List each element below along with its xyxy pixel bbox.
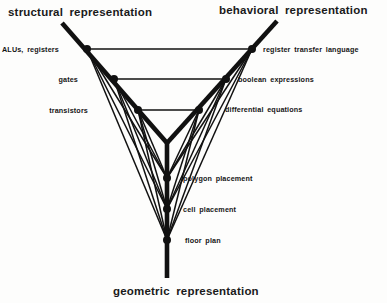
axis-title-structural: structural representation <box>8 6 152 18</box>
y-chart-figure: structural representation behavioral rep… <box>0 0 387 303</box>
node-label-polygon-placement: polygon placement <box>183 174 253 183</box>
fan-line-gates-cell <box>114 79 167 209</box>
axis-title-geometric: geometric representation <box>113 285 259 297</box>
node-label-cell-placement: cell placement <box>183 205 236 214</box>
node-label-differential-equations: differential equations <box>225 105 302 114</box>
axis-title-behavioral: behavioral representation <box>219 4 368 16</box>
node-dot-cell-placement <box>163 205 171 213</box>
fan-line-trans-polygon <box>138 110 167 178</box>
node-label-gates: gates <box>2 75 78 84</box>
node-label-alus-registers: ALUs, registers <box>2 45 59 54</box>
node-label-boolean-expressions: boolean expressions <box>238 75 314 84</box>
node-dot-transistors <box>134 106 142 114</box>
node-dot-alus-registers <box>83 45 91 53</box>
fan-line-bool-cell <box>167 79 226 209</box>
node-dot-floor-plan <box>163 236 171 244</box>
node-dot-register-transfer-language <box>248 45 256 53</box>
node-dot-polygon-placement <box>163 174 171 182</box>
node-label-floor-plan: floor plan <box>185 236 221 245</box>
fan-line-struct-floor <box>87 49 167 240</box>
node-label-transistors: transistors <box>2 106 88 115</box>
structural-fan-lines <box>87 49 167 240</box>
node-label-register-transfer-language: register transfer language <box>263 45 359 54</box>
node-dot-boolean-expressions <box>222 75 230 83</box>
node-dot-differential-equations <box>195 106 203 114</box>
node-dot-gates <box>110 75 118 83</box>
